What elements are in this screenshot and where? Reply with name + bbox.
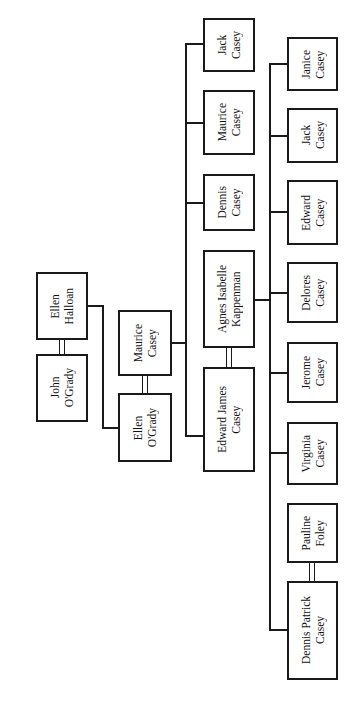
- person-name: Pauline Foley: [299, 516, 327, 551]
- descent-line: [185, 43, 187, 437]
- person-janice-casey: Janice Casey: [287, 37, 338, 91]
- person-jack-casey-gen3: Jack Casey: [203, 18, 255, 72]
- descent-line: [269, 211, 287, 213]
- marriage-connector: [309, 563, 315, 581]
- person-dennis-casey: Dennis Casey: [203, 174, 255, 231]
- person-edward-casey: Edward Casey: [287, 180, 338, 245]
- person-virginia-casey: Virginia Casey: [287, 422, 338, 485]
- person-name: Ellen Halloan: [48, 288, 76, 324]
- person-ellen-halloan: Ellen Halloan: [36, 272, 88, 340]
- person-agnes-isabelle-kappenman: Agnes Isabelle Kappenman: [203, 250, 255, 348]
- person-name: Dennis Patrick Casey: [299, 596, 327, 664]
- person-name: Ellen O'Grady: [131, 408, 159, 447]
- person-name: Delores Casey: [299, 275, 327, 311]
- person-maurice-casey-gen3: Maurice Casey: [203, 90, 255, 155]
- descent-line: [102, 427, 118, 429]
- person-jerome-casey: Jerome Casey: [287, 342, 338, 403]
- descent-line: [172, 342, 186, 344]
- person-name: Janice Casey: [299, 50, 327, 79]
- person-name: Jerome Casey: [299, 356, 327, 389]
- marriage-connector: [59, 340, 65, 354]
- person-name: Agnes Isabelle Kappenman: [215, 265, 243, 333]
- descent-line: [185, 122, 203, 124]
- person-name: Edward James Casey: [215, 386, 243, 453]
- descent-line: [269, 63, 271, 631]
- descent-line: [269, 452, 287, 454]
- person-name: Edward Casey: [299, 195, 327, 231]
- descent-line: [269, 372, 287, 374]
- descent-line: [185, 43, 203, 45]
- descent-line: [269, 135, 287, 137]
- person-name: Virginia Casey: [299, 435, 327, 472]
- person-maurice-casey-gen2: Maurice Casey: [118, 310, 172, 376]
- descent-line: [185, 202, 203, 204]
- person-name: Dennis Casey: [215, 186, 243, 219]
- person-john-ogrady: John O'Grady: [36, 354, 88, 422]
- person-name: Maurice Casey: [215, 103, 243, 141]
- person-ellen-ogrady: Ellen O'Grady: [118, 393, 172, 462]
- person-pauline-foley: Pauline Foley: [287, 503, 338, 563]
- descent-line: [269, 629, 287, 631]
- marriage-connector: [226, 348, 232, 367]
- descent-line: [185, 435, 203, 437]
- descent-line: [269, 63, 287, 65]
- person-name: John O'Grady: [48, 368, 76, 407]
- person-edward-james-casey: Edward James Casey: [203, 367, 255, 472]
- person-name: Jack Casey: [299, 121, 327, 149]
- person-delores-casey: Delores Casey: [287, 262, 338, 323]
- descent-line: [269, 292, 287, 294]
- marriage-connector: [142, 376, 148, 393]
- person-name: Jack Casey: [215, 31, 243, 59]
- person-jack-casey-gen4: Jack Casey: [287, 108, 338, 163]
- person-dennis-patrick-casey: Dennis Patrick Casey: [287, 581, 338, 680]
- person-name: Maurice Casey: [131, 324, 159, 362]
- descent-line: [102, 305, 104, 429]
